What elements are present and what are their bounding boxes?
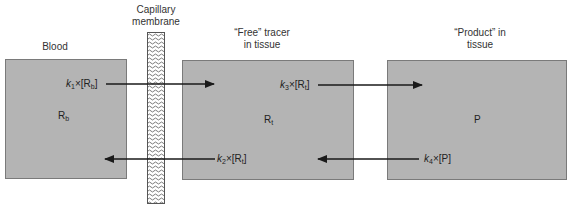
blood-heading: Blood xyxy=(30,41,80,53)
product-heading: “Product” in tissue xyxy=(440,27,520,51)
free-tracer-heading-line1: “Free” tracer xyxy=(222,27,302,39)
membrane-heading-line1: Capillary xyxy=(126,4,186,16)
free-tracer-heading: “Free” tracer in tissue xyxy=(222,27,302,51)
k1-var: R xyxy=(84,78,91,89)
blood-heading-text: Blood xyxy=(42,41,68,52)
product-heading-line2: tissue xyxy=(440,39,520,51)
k4-times: ×[ xyxy=(433,153,442,164)
k1-rate-label: k1×[Rb] xyxy=(66,78,97,93)
k3-times: ×[ xyxy=(289,79,298,90)
product-heading-line1: “Product” in xyxy=(440,27,520,39)
k2-times: ×[ xyxy=(226,153,235,164)
wavy-pattern-icon xyxy=(148,33,164,203)
k2-rate-label: k2×[Rt] xyxy=(217,153,247,168)
k1-times: ×[ xyxy=(75,78,84,89)
k3-var: R xyxy=(298,79,305,90)
blood-variable-sub: b xyxy=(65,115,69,122)
membrane-heading-line2: membrane xyxy=(126,16,186,28)
k4-close: ] xyxy=(448,153,451,164)
free-tracer-variable: Rt xyxy=(264,114,273,129)
blood-variable: Rb xyxy=(58,110,69,125)
product-variable: P xyxy=(474,114,481,126)
free-tracer-heading-line2: in tissue xyxy=(222,39,302,51)
k1-close: ] xyxy=(95,78,98,89)
membrane-heading: Capillary membrane xyxy=(126,4,186,28)
k4-rate-label: k4×[P] xyxy=(424,153,451,168)
k3-rate-label: k3×[Rt] xyxy=(280,79,310,94)
product-variable-main: P xyxy=(474,114,481,125)
k3-close: ] xyxy=(307,79,310,90)
capillary-membrane xyxy=(147,32,165,204)
k2-close: ] xyxy=(244,153,247,164)
k2-var: R xyxy=(235,153,242,164)
free-tracer-variable-sub: t xyxy=(271,119,273,126)
